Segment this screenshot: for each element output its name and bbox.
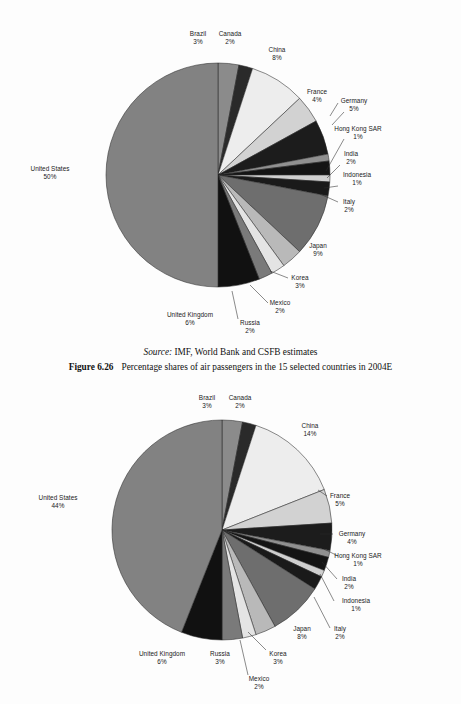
pie-slice-label-united-states: United States44%: [18, 494, 98, 510]
pie-slice-label-name: Germany: [339, 530, 366, 537]
pie-slice-label-value: 8%: [262, 633, 342, 641]
pie-slice-label-name: Russia: [210, 650, 230, 657]
pie-slice-label-name: Korea: [291, 274, 308, 281]
pie-slice-label-value: 8%: [237, 54, 317, 62]
pie-slice-label-india: India2%: [311, 150, 391, 166]
pie-slice-label-name: Hong Kong SAR: [334, 125, 382, 132]
figure-number: Figure 6.26: [69, 362, 114, 372]
pie-slice-label-name: France: [307, 88, 327, 95]
pie-slice-label-name: United States: [30, 165, 69, 172]
pie-slice-label-name: United Kingdom: [139, 650, 185, 657]
pie-slice-label-name: France: [330, 492, 350, 499]
pie-slice-label-japan: Japan8%: [262, 625, 342, 641]
pie-slice-label-germany: Germany5%: [314, 97, 394, 113]
pie-slice-label-value: 2%: [210, 327, 290, 335]
pie-slice-label-value: 2%: [219, 683, 299, 691]
pie-slice-label-value: 2%: [200, 402, 280, 410]
figure-caption: Figure 6.26Percentage shares of air pass…: [0, 362, 461, 372]
pie-chart-figure-upper: Brazil3%Canada2%China8%France4%Germany5%…: [0, 8, 461, 338]
pie-slice-label-value: 2%: [240, 307, 320, 315]
leader-line: [332, 112, 344, 125]
pie-slice-label-united-kingdom: United Kingdom6%: [150, 311, 230, 327]
pie-slice-label-value: 2%: [309, 206, 389, 214]
pie-slice-label-value: 1%: [318, 560, 398, 568]
pie-slice-label-mexico: Mexico2%: [240, 299, 320, 315]
source-prefix: Source:: [144, 347, 173, 357]
source-line: Source: IMF, World Bank and CSFB estimat…: [0, 347, 461, 357]
pie-slice-label-name: Korea: [269, 650, 286, 657]
pie-slice-label-name: United States: [38, 494, 77, 501]
pie-slice-label-name: Russia: [240, 319, 260, 326]
pie-slice-label-name: Hong Kong SAR: [334, 552, 382, 559]
pie-slice-label-united-states: United States50%: [10, 165, 90, 181]
source-text: IMF, World Bank and CSFB estimates: [172, 347, 317, 357]
pie-slice-label-value: 1%: [317, 179, 397, 187]
pie-slice-label-united-kingdom: United Kingdom6%: [122, 650, 202, 666]
pie-slice-label-name: India: [342, 575, 356, 582]
pie-slice-label-name: Japan: [293, 625, 311, 632]
pie-slice-label-hong-kong-sar: Hong Kong SAR1%: [318, 125, 398, 141]
pie-slice-label-name: United Kingdom: [167, 311, 213, 318]
pie-slice-label-value: 2%: [309, 583, 389, 591]
pie-slice-label-indonesia: Indonesia1%: [317, 171, 397, 187]
pie-slice-label-value: 4%: [312, 538, 392, 546]
pie-chart-figure-lower: Brazil3%Canada2%China14%France5%Germany4…: [0, 382, 461, 704]
pie-slice-label-name: Mexico: [249, 675, 270, 682]
pie-slice-label-name: India: [344, 150, 358, 157]
pie-slice-label-canada: Canada2%: [200, 394, 280, 410]
pie-slice-label-value: 9%: [278, 250, 358, 258]
pie-slice-label-value: 2%: [311, 158, 391, 166]
document-page: Brazil3%Canada2%China8%France4%Germany5%…: [0, 0, 461, 704]
pie-slice-label-value: 14%: [270, 430, 350, 438]
pie-slice-label-china: China14%: [270, 422, 350, 438]
pie-slice-label-value: 1%: [316, 605, 396, 613]
pie-slice-label-germany: Germany4%: [312, 530, 392, 546]
pie-slice-label-name: Mexico: [270, 299, 291, 306]
figure-title: Percentage shares of air passengers in t…: [121, 362, 392, 372]
pie-slice-label-canada: Canada2%: [190, 30, 270, 46]
pie-slice-label-name: Indonesia: [342, 597, 370, 604]
pie-slice-label-italy: Italy2%: [309, 198, 389, 214]
pie-slice-label-value: 6%: [150, 319, 230, 327]
pie-slice-label-korea: Korea3%: [260, 274, 340, 290]
pie-slice-label-indonesia: Indonesia1%: [316, 597, 396, 613]
pie-slice-label-value: 5%: [314, 105, 394, 113]
pie-slice-label-france: France5%: [300, 492, 380, 508]
pie-slice-label-name: Canada: [229, 394, 252, 401]
pie-slice-label-china: China8%: [237, 46, 317, 62]
pie-slice-label-value: 50%: [10, 173, 90, 181]
pie-slice-label-value: 5%: [300, 500, 380, 508]
leader-line: [232, 291, 238, 319]
pie-slice-label-value: 44%: [18, 502, 98, 510]
pie-slice-label-india: India2%: [309, 575, 389, 591]
pie-slice-label-japan: Japan9%: [278, 242, 358, 258]
pie-slice-label-name: Indonesia: [343, 171, 371, 178]
pie-slice-label-name: China: [269, 46, 286, 53]
pie-slice-label-name: China: [302, 422, 319, 429]
pie-slice-label-name: Italy: [343, 198, 355, 205]
pie-slice-label-name: Japan: [309, 242, 327, 249]
pie-slice-label-value: 6%: [122, 658, 202, 666]
pie-slice-label-mexico: Mexico2%: [219, 675, 299, 691]
pie-slice-label-hong-kong-sar: Hong Kong SAR1%: [318, 552, 398, 568]
pie-slice-label-value: 1%: [318, 133, 398, 141]
pie-slice-label-value: 3%: [260, 282, 340, 290]
pie-slice-label-name: Canada: [219, 30, 242, 37]
pie-slice-label-name: Germany: [341, 97, 368, 104]
pie-slice[interactable]: [106, 63, 218, 287]
